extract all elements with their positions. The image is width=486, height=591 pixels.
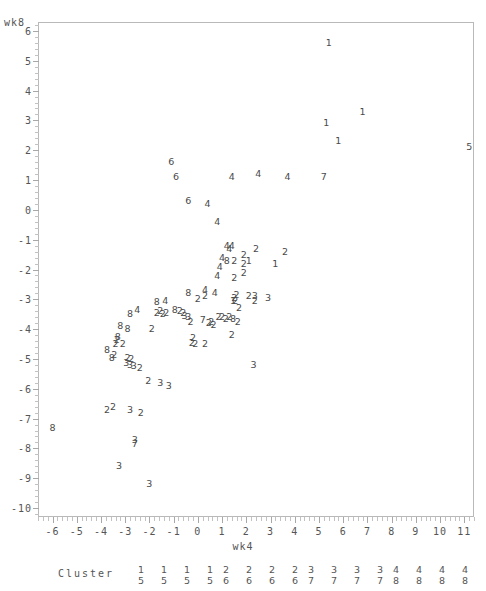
x-tick-minor [469, 517, 470, 521]
y-tick-minor [35, 305, 39, 306]
x-tick-minor [43, 517, 44, 521]
x-tick-minor [430, 517, 431, 521]
x-tick-mark [149, 517, 150, 523]
y-tick-minor [35, 514, 39, 515]
x-tick-minor [82, 517, 83, 521]
x-tick-minor [353, 517, 354, 521]
data-marker: 3 [116, 462, 122, 472]
cluster-key-top: 1 [179, 564, 195, 575]
y-tick-minor [35, 484, 39, 485]
x-tick-minor [285, 517, 286, 521]
x-tick-minor [251, 517, 252, 521]
y-tick-mark [33, 508, 39, 509]
cluster-key-bottom: 5 [133, 575, 149, 586]
y-tick-minor [35, 490, 39, 491]
y-tick-minor [35, 383, 39, 384]
data-marker: 2 [137, 363, 143, 373]
y-tick-minor [35, 287, 39, 288]
x-tick-minor [396, 517, 397, 521]
y-tick-minor [35, 395, 39, 396]
x-tick-minor [304, 517, 305, 521]
cluster-key-bottom: 7 [326, 575, 342, 586]
data-marker: 2 [253, 244, 259, 254]
data-marker: 2 [202, 292, 208, 302]
data-marker: 3 [146, 479, 152, 489]
data-marker: 1 [360, 107, 366, 117]
y-tick-label: -6 [0, 383, 32, 394]
y-tick-minor [35, 472, 39, 473]
y-tick-label: -5 [0, 353, 32, 364]
x-tick-mark [222, 517, 223, 523]
data-marker: 2 [231, 256, 237, 266]
x-tick-minor [348, 517, 349, 521]
x-tick-minor [459, 517, 460, 521]
y-tick-minor [35, 347, 39, 348]
cluster-legend-key: 48 [411, 564, 427, 586]
y-tick-label: 1 [0, 175, 32, 186]
cluster-legend-key: 26 [241, 564, 257, 586]
data-marker: 8 [125, 324, 131, 334]
x-tick-minor [300, 517, 301, 521]
x-tick-minor [72, 517, 73, 521]
y-tick-mark [33, 389, 39, 390]
x-tick-minor [426, 517, 427, 521]
data-marker: 2 [138, 408, 144, 418]
data-marker: 7 [132, 439, 138, 449]
x-tick-minor [280, 517, 281, 521]
data-marker: 4 [226, 244, 232, 254]
data-marker: 4 [212, 289, 218, 299]
cluster-key-top: 1 [156, 564, 172, 575]
y-tick-label: 3 [0, 115, 32, 126]
data-marker: 4 [229, 172, 235, 182]
x-tick-mark [343, 517, 344, 523]
y-tick-label: -1 [0, 234, 32, 245]
x-tick-mark [416, 517, 417, 523]
data-marker: 2 [163, 308, 169, 318]
cluster-key-bottom: 8 [388, 575, 404, 586]
cluster-key-top: 2 [218, 564, 234, 575]
x-tick-minor [411, 517, 412, 521]
y-tick-minor [35, 108, 39, 109]
x-tick-minor [38, 517, 39, 521]
x-tick-minor [208, 517, 209, 521]
data-marker: 2 [236, 304, 242, 314]
data-marker: 2 [241, 268, 247, 278]
cluster-legend: Cluster 15151515262626263737373748484848 [0, 562, 486, 591]
cluster-legend-key: 26 [218, 564, 234, 586]
y-tick-minor [35, 228, 39, 229]
y-tick-minor [35, 431, 39, 432]
data-marker: 6 [168, 157, 174, 167]
y-tick-mark [33, 359, 39, 360]
data-marker: 2 [111, 350, 117, 360]
y-tick-label: -3 [0, 294, 32, 305]
data-marker: 6 [173, 172, 179, 182]
x-tick-mark [319, 517, 320, 523]
data-marker: 2 [235, 317, 241, 327]
data-marker: 7 [321, 172, 327, 182]
x-tick-mark [246, 517, 247, 523]
x-tick-mark [440, 517, 441, 523]
y-tick-label: 2 [0, 145, 32, 156]
y-tick-mark [33, 91, 39, 92]
y-tick-minor [35, 353, 39, 354]
cluster-key-top: 4 [411, 564, 427, 575]
data-marker: 4 [134, 305, 140, 315]
cluster-key-top: 2 [264, 564, 280, 575]
y-tick-minor [35, 234, 39, 235]
y-tick-label: -10 [0, 503, 32, 514]
x-tick-minor [275, 517, 276, 521]
cluster-key-top: 4 [457, 564, 473, 575]
cluster-key-bottom: 7 [349, 575, 365, 586]
x-tick-minor [474, 517, 475, 521]
data-marker: 2 [110, 402, 116, 412]
data-marker: 4 [214, 217, 220, 227]
cluster-legend-key: 37 [303, 564, 319, 586]
x-tick-minor [135, 517, 136, 521]
y-tick-minor [35, 425, 39, 426]
y-tick-minor [35, 496, 39, 497]
y-tick-minor [35, 132, 39, 133]
y-tick-minor [35, 371, 39, 372]
y-tick-label: 5 [0, 55, 32, 66]
cluster-key-bottom: 6 [264, 575, 280, 586]
x-tick-minor [314, 517, 315, 521]
